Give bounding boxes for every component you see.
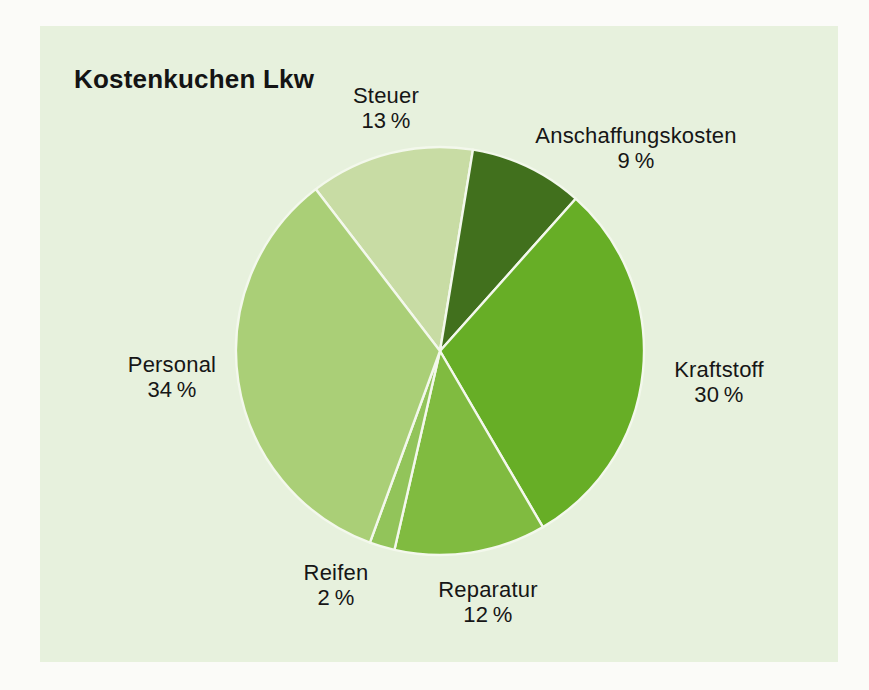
- chart-title: Kostenkuchen Lkw: [74, 64, 314, 95]
- slice-name-reifen: Reifen: [304, 560, 369, 585]
- label-reifen: Reifen 2 %: [304, 560, 369, 610]
- slice-percent-personal: 34 %: [128, 377, 216, 402]
- slice-percent-steuer: 13 %: [353, 108, 419, 133]
- slice-percent-anschaffungskosten: 9 %: [535, 148, 736, 173]
- slice-name-personal: Personal: [128, 352, 216, 377]
- label-reparatur: Reparatur 12 %: [438, 577, 538, 627]
- slice-percent-kraftstoff: 30 %: [674, 382, 764, 407]
- slice-percent-reparatur: 12 %: [438, 602, 538, 627]
- slice-name-anschaffungskosten: Anschaffungskosten: [535, 123, 736, 148]
- label-personal: Personal 34 %: [128, 352, 216, 402]
- slice-name-kraftstoff: Kraftstoff: [674, 357, 764, 382]
- slice-name-reparatur: Reparatur: [438, 577, 538, 602]
- label-steuer: Steuer 13 %: [353, 83, 419, 133]
- pie-chart: [225, 136, 655, 566]
- label-anschaffungskosten: Anschaffungskosten 9 %: [535, 123, 736, 173]
- label-kraftstoff: Kraftstoff 30 %: [674, 357, 764, 407]
- slice-percent-reifen: 2 %: [304, 585, 369, 610]
- page: Kostenkuchen Lkw Steuer 13 % Anschaffung…: [0, 0, 869, 690]
- slice-name-steuer: Steuer: [353, 83, 419, 108]
